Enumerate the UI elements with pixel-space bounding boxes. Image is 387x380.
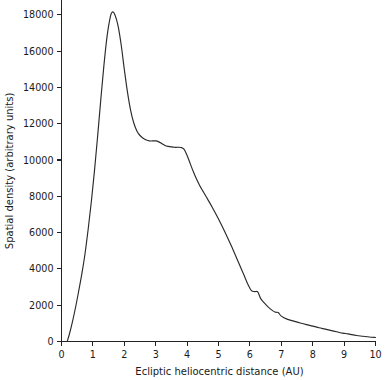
y-tick-label: 14000 xyxy=(23,82,54,93)
x-tick-label: 7 xyxy=(278,349,284,360)
y-tick-label: 10000 xyxy=(23,155,54,166)
y-tick-labels: 0200040006000800010000120001400016000180… xyxy=(23,9,54,347)
x-tick-label: 6 xyxy=(247,349,253,360)
x-tick-marks xyxy=(62,342,376,347)
x-tick-label: 0 xyxy=(58,349,64,360)
y-tick-label: 6000 xyxy=(29,227,53,238)
chart-figure: 0200040006000800010000120001400016000180… xyxy=(0,0,387,380)
y-tick-label: 2000 xyxy=(29,300,53,311)
x-tick-label: 5 xyxy=(215,349,221,360)
x-tick-label: 4 xyxy=(184,349,190,360)
y-tick-label: 18000 xyxy=(23,9,54,20)
chart-canvas: 0200040006000800010000120001400016000180… xyxy=(0,0,387,380)
y-tick-label: 16000 xyxy=(23,46,54,57)
y-tick-label: 12000 xyxy=(23,118,54,129)
y-tick-marks xyxy=(57,15,62,342)
y-tick-label: 4000 xyxy=(29,263,53,274)
x-axis-group: 012345678910 xyxy=(58,342,381,360)
y-axis-title: Spatial density (arbitrary units) xyxy=(4,93,15,250)
x-tick-label: 10 xyxy=(369,349,381,360)
x-axis-title: Ecliptic heliocentric distance (AU) xyxy=(135,366,303,377)
y-axis-group: 0200040006000800010000120001400016000180… xyxy=(23,0,62,347)
y-tick-label: 8000 xyxy=(29,191,53,202)
x-tick-label: 2 xyxy=(121,349,127,360)
density-curve xyxy=(67,12,375,342)
x-tick-label: 9 xyxy=(341,349,347,360)
x-tick-label: 8 xyxy=(310,349,316,360)
x-tick-labels: 012345678910 xyxy=(58,349,381,360)
y-tick-label: 0 xyxy=(47,336,53,347)
x-tick-label: 1 xyxy=(90,349,96,360)
x-tick-label: 3 xyxy=(153,349,159,360)
